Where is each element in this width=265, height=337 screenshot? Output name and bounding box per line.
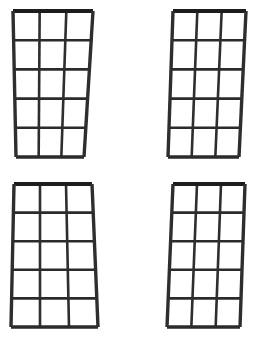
vertical-mullion-1: [39, 11, 40, 157]
panel-glass-fill: [167, 184, 245, 327]
panel-glass-fill: [13, 11, 93, 157]
panel-glass-fill: [11, 184, 98, 327]
scene-canvas: [0, 0, 265, 337]
panel-glass-fill: [168, 11, 246, 157]
panel-top-left: [9, 7, 97, 161]
panel-top-right: [164, 7, 250, 161]
panel-bottom-right: [163, 180, 249, 331]
panel-bottom-left: [7, 180, 102, 331]
